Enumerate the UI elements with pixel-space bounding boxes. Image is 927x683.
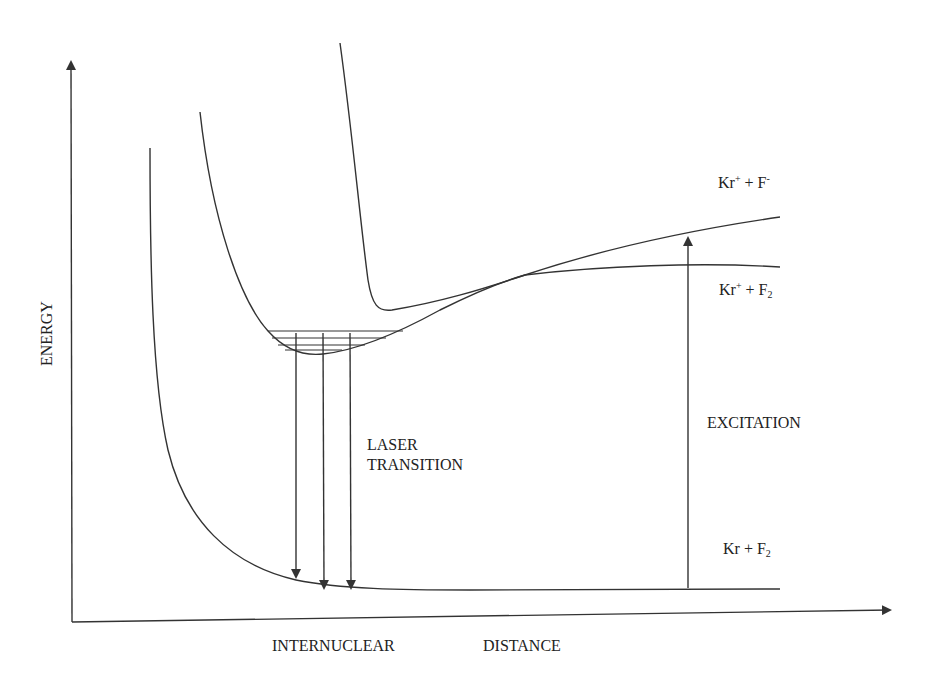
energy-diagram [0,0,927,683]
ionic-excited-curve [340,43,780,310]
covalent-excited-curve [200,112,780,354]
label-excitation: EXCITATION [707,415,801,431]
y-axis-label: ENERGY [39,301,55,366]
y-axis [71,62,72,622]
label-kr-f2: Kr + F2 [723,541,771,559]
ground-state-curve [150,148,780,590]
label-laser: LASER [367,437,418,453]
laser-transition-arrows [296,333,351,588]
x-axis-label-distance: DISTANCE [483,638,561,654]
x-axis [72,610,890,622]
label-kr-ion-f-ion: Kr+ + F- [718,174,770,191]
label-kr-ion-f2: Kr+ + F2 [719,281,772,300]
label-transition: TRANSITION [367,457,463,473]
x-axis-label-internuclear: INTERNUCLEAR [272,638,395,654]
